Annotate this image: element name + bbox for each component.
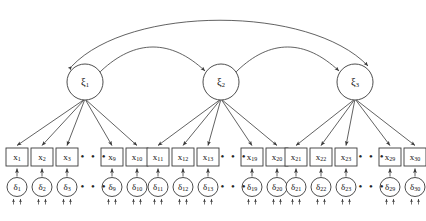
error-arrows	[17, 169, 415, 177]
covariance-arc-xi2-xi3	[237, 47, 339, 71]
indicator-node-x3[interactable]: x3	[56, 148, 78, 166]
ellipsis-indicator-row: • • •	[358, 150, 385, 162]
ellipsis-error-row: • • •	[220, 180, 247, 192]
loading-arrow-x2	[42, 100, 84, 145]
ellipsis-error-row: • • •	[358, 180, 385, 192]
indicator-node-x12[interactable]: x12	[172, 148, 194, 166]
error-node-δ12[interactable]: δ12	[173, 178, 193, 197]
indicator-node-x1[interactable]: x1	[6, 148, 28, 166]
residual-tick-arrows	[14, 199, 419, 205]
error-node-δ30[interactable]: δ30	[405, 178, 425, 197]
loading-arrow-x23	[346, 100, 355, 145]
loading-arrow-x3	[67, 100, 84, 145]
indicator-node-x11[interactable]: x11	[147, 148, 169, 166]
error-node-δ20[interactable]: δ20	[267, 178, 287, 197]
loading-arrow-x9	[86, 100, 112, 145]
ellipsis-indicator-row: • • •	[220, 150, 247, 162]
latent-node-xi3[interactable]: ξ3	[337, 64, 373, 100]
indicator-node-x21[interactable]: x21	[285, 148, 307, 166]
error-node-δ22[interactable]: δ22	[311, 178, 331, 197]
latent-factor-nodes: ξ1 ξ2 ξ3	[67, 64, 373, 100]
latent-node-xi1[interactable]: ξ1	[67, 64, 103, 100]
indicator-node-x30[interactable]: x30	[404, 148, 426, 166]
error-node-δ10[interactable]: δ10	[127, 178, 147, 197]
ellipsis-error-row: • • •	[80, 180, 107, 192]
error-node-δ1[interactable]: δ1	[7, 178, 27, 197]
error-node-δ2[interactable]: δ2	[32, 178, 52, 197]
loading-arrow-x21	[296, 100, 354, 146]
ellipsis-indicator-row: • • •	[80, 150, 107, 162]
latent-node-xi2[interactable]: ξ2	[203, 64, 239, 100]
loading-arrow-x20	[222, 100, 277, 146]
loading-arrow-x1	[17, 100, 84, 146]
error-node-δ3[interactable]: δ3	[57, 178, 77, 197]
sem-path-diagram: x1x2x3x9x10x11x12x13x19x20x21x22x23x29x3…	[0, 0, 426, 221]
loading-arrow-x30	[356, 100, 415, 146]
indicator-node-x23[interactable]: x23	[335, 148, 357, 166]
covariance-arc-xi1-xi2	[101, 47, 205, 71]
diagram-canvas: x1x2x3x9x10x11x12x13x19x20x21x22x23x29x3…	[0, 0, 426, 221]
loading-arrow-x10	[86, 100, 137, 146]
error-node-δ11[interactable]: δ11	[148, 178, 168, 197]
loading-arrow-x29	[356, 100, 390, 145]
covariance-arcs	[72, 20, 368, 71]
loading-arrow-x19	[222, 100, 252, 145]
error-node-δ13[interactable]: δ13	[198, 178, 218, 197]
error-node-δ21[interactable]: δ21	[286, 178, 306, 197]
factor-loading-arrows	[17, 100, 415, 146]
error-node-δ23[interactable]: δ23	[336, 178, 356, 197]
loading-arrow-x22	[321, 100, 354, 145]
indicator-node-x22[interactable]: x22	[310, 148, 332, 166]
indicator-node-x2[interactable]: x2	[31, 148, 53, 166]
indicator-node-x13[interactable]: x13	[197, 148, 219, 166]
indicator-node-x10[interactable]: x10	[126, 148, 148, 166]
